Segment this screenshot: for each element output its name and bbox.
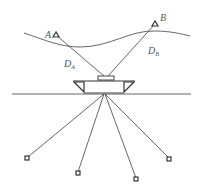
station-a-triangle-icon bbox=[53, 32, 59, 37]
beacon-1-square-icon bbox=[25, 156, 29, 160]
beacon-2-square-icon bbox=[76, 171, 80, 175]
vessel-bow bbox=[74, 82, 84, 92]
beacon-4-square-icon bbox=[167, 157, 171, 161]
acoustic-line-4 bbox=[105, 94, 169, 158]
range-line-a bbox=[56, 35, 104, 76]
station-b-label: B bbox=[160, 12, 166, 23]
acoustic-line-3 bbox=[105, 94, 136, 178]
acoustic-line-1 bbox=[28, 94, 104, 157]
vessel bbox=[73, 76, 135, 93]
vessel-stern bbox=[124, 82, 134, 92]
station-b-triangle-icon bbox=[152, 21, 158, 26]
station-a-label: A bbox=[44, 29, 52, 40]
acoustic-line-2 bbox=[78, 94, 104, 172]
positioning-diagram: A B DA DB bbox=[0, 0, 202, 192]
beacon-3-square-icon bbox=[134, 177, 138, 181]
vessel-cabin bbox=[98, 76, 114, 80]
distance-b-label: DB bbox=[147, 45, 159, 57]
distance-a-label: DA bbox=[63, 58, 75, 70]
